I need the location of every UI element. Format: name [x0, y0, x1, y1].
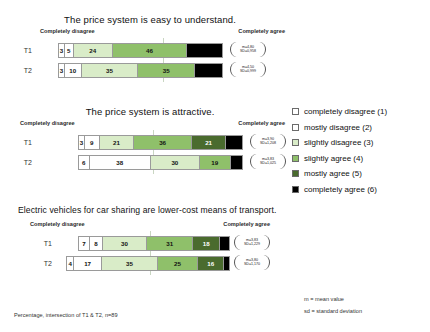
legend-swatch-icon: [292, 139, 299, 146]
axis-label-left-3: Completely disagree: [30, 221, 85, 227]
axis-labels-1: Completely disagree Completely agree: [40, 28, 285, 38]
legend-swatch-icon: [292, 155, 299, 162]
bar-row: T2 3103535 m=4,50 SD=0,999: [40, 62, 285, 78]
chart-block-3: Electric vehicles for car sharing are lo…: [0, 205, 300, 275]
legend: completely disagree (1) mostly disagree …: [292, 104, 430, 197]
bar-segment: 10: [65, 64, 82, 77]
stat-sd: SD=1,170: [244, 263, 260, 267]
bar-segment: 21: [192, 136, 226, 149]
bar-segment: 25: [158, 257, 198, 270]
legend-label: slightly disagree (3): [304, 138, 373, 147]
axis-label-right-3: Completely agree: [223, 221, 270, 227]
bar-segment: 24: [74, 44, 113, 57]
chart-title-2: The price system is attractive.: [0, 106, 300, 117]
axis-labels-2: Completely disagree Completely agree: [20, 120, 285, 130]
bar-segment: 30: [103, 237, 148, 250]
legend-item: mostly agree (5): [292, 166, 430, 182]
legend-item: slightly disagree (3): [292, 135, 430, 151]
bar-segment: 8: [90, 237, 103, 250]
stat-sd: SD=0,958: [240, 50, 256, 54]
bar-segment: 31: [147, 237, 193, 250]
stat-box: m=4,50 SD=0,999: [230, 62, 266, 77]
sd-note: sd = standard deviation: [304, 308, 362, 314]
stacked-bar: 78303118: [78, 236, 230, 251]
row-label: T1: [2, 47, 32, 54]
footnote: Percentage, intersection of T1 & T2, n=8…: [14, 312, 118, 318]
axis-labels-3: Completely disagree Completely agree: [30, 221, 270, 231]
bar-segment: 46: [113, 44, 187, 57]
bar-segment: [231, 156, 242, 169]
chart-page: The price system is easy to understand. …: [0, 0, 430, 332]
plot-3: T1 78303118 m=3,83 SD=1,229 T2 417352516…: [30, 235, 270, 271]
bar-segment: 21: [100, 136, 134, 149]
bar-segment: 5: [65, 44, 74, 57]
bar-segment: 19: [200, 156, 231, 169]
stat-sd: SD=1,229: [244, 243, 260, 247]
stacked-bar: 417352516: [66, 256, 230, 271]
bar-segment: 38: [90, 156, 151, 169]
legend-label: completely agree (6): [304, 185, 377, 194]
chart-block-1: The price system is easy to understand. …: [0, 14, 300, 82]
legend-swatch-icon: [292, 170, 299, 177]
bar-segment: [195, 64, 222, 77]
mean-note: m = mean value: [304, 296, 344, 302]
bar-row: T2 6383019 m=3,83 SD=1,025: [20, 154, 285, 170]
bar-segment: 6: [79, 156, 90, 169]
bar-segment: 17: [74, 257, 102, 270]
plot-2: T1 39213621 m=3,90 SD=1,208 T2 6383019 m…: [20, 134, 285, 170]
row-label: T1: [22, 240, 52, 247]
bar-row: T2 417352516 m=3,80 SD=1,170: [30, 255, 270, 271]
legend-label: completely disagree (1): [304, 107, 387, 116]
chart-title-3: Electric vehicles for car sharing are lo…: [18, 205, 318, 215]
legend-item: mostly disagree (2): [292, 120, 430, 136]
stacked-bar: 352446: [58, 43, 223, 58]
bar-segment: [226, 136, 242, 149]
bar-segment: 16: [198, 257, 224, 270]
stat-box: m=3,80 SD=1,170: [234, 255, 270, 270]
stat-sd: SD=1,208: [260, 142, 276, 146]
row-label: T2: [2, 159, 32, 166]
stat-box: m=3,83 SD=1,025: [250, 154, 286, 169]
row-label: T2: [2, 67, 32, 74]
chart-title-1: The price system is easy to understand.: [0, 14, 300, 25]
legend-label: mostly agree (5): [304, 169, 362, 178]
stacked-bar: 3103535: [58, 63, 223, 78]
bar-segment: [224, 257, 229, 270]
axis-label-right-1: Completely agree: [238, 28, 285, 34]
legend-label: slightly agree (4): [304, 154, 363, 163]
stat-box: m=3,83 SD=1,229: [234, 235, 270, 250]
chart-block-2: The price system is attractive. Complete…: [0, 106, 300, 174]
bar-segment: 18: [193, 237, 220, 250]
legend-swatch-icon: [292, 124, 299, 131]
axis-label-left-2: Completely disagree: [20, 120, 75, 126]
stat-box: m=3,90 SD=1,208: [250, 134, 286, 149]
axis-label-left-1: Completely disagree: [40, 28, 95, 34]
legend-label: mostly disagree (2): [304, 123, 372, 132]
bar-segment: [220, 237, 229, 250]
axis-label-right-2: Completely agree: [238, 120, 285, 126]
stat-sd: SD=1,025: [260, 162, 276, 166]
bar-row: T1 352446 m=4,80 SD=0,958: [40, 42, 285, 58]
legend-item: slightly agree (4): [292, 151, 430, 167]
legend-item: completely disagree (1): [292, 104, 430, 120]
stacked-bar: 6383019: [78, 155, 243, 170]
legend-swatch-icon: [292, 108, 299, 115]
bar-segment: 4: [67, 257, 74, 270]
bar-segment: 9: [85, 136, 100, 149]
bar-row: T1 78303118 m=3,83 SD=1,229: [30, 235, 270, 251]
bar-segment: 35: [82, 64, 139, 77]
legend-item: completely agree (6): [292, 182, 430, 198]
bar-segment: 7: [79, 237, 90, 250]
stacked-bar: 39213621: [78, 135, 243, 150]
row-label: T1: [2, 139, 32, 146]
bar-segment: 36: [134, 136, 192, 149]
row-label: T2: [22, 260, 52, 267]
stat-sd: SD=0,999: [240, 70, 256, 74]
bar-segment: 35: [102, 257, 158, 270]
plot-1: T1 352446 m=4,80 SD=0,958 T2 3103535 m=4…: [40, 42, 285, 78]
legend-swatch-icon: [292, 186, 299, 193]
bar-segment: 30: [151, 156, 200, 169]
stat-box: m=4,80 SD=0,958: [230, 42, 266, 57]
bar-row: T1 39213621 m=3,90 SD=1,208: [20, 134, 285, 150]
bar-segment: [187, 44, 222, 57]
